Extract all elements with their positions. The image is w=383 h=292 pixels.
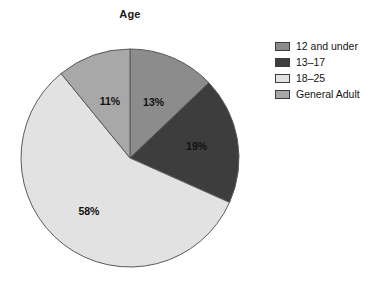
legend-item-general-adult[interactable]: General Adult xyxy=(275,86,383,102)
legend-item-label: General Adult xyxy=(296,86,360,102)
legend-item-13-17[interactable]: 13–17 xyxy=(275,54,383,70)
legend: 12 and under 13–17 18–25 General Adult xyxy=(275,38,383,102)
legend-item-label: 12 and under xyxy=(296,38,358,54)
pie-plot-area: 13%19%58%11% xyxy=(0,0,262,292)
legend-item-12-and-under[interactable]: 12 and under xyxy=(275,38,383,54)
pie-slice-label: 13% xyxy=(143,96,165,108)
pie-svg: 13%19%58%11% xyxy=(0,0,262,292)
legend-item-label: 13–17 xyxy=(296,54,325,70)
pie-slice-label: 11% xyxy=(100,95,121,107)
legend-swatch-icon xyxy=(275,42,290,51)
legend-swatch-icon xyxy=(275,74,290,83)
pie-slice-label: 19% xyxy=(186,140,208,152)
legend-swatch-icon xyxy=(275,58,290,67)
pie-slice-label: 58% xyxy=(78,205,100,217)
legend-item-label: 18–25 xyxy=(296,70,325,86)
pie-slice-group xyxy=(21,49,239,267)
pie-chart-figure: Age 13%19%58%11% 12 and under 13–17 18–2… xyxy=(0,0,383,292)
legend-swatch-icon xyxy=(275,90,290,99)
legend-item-18-25[interactable]: 18–25 xyxy=(275,70,383,86)
